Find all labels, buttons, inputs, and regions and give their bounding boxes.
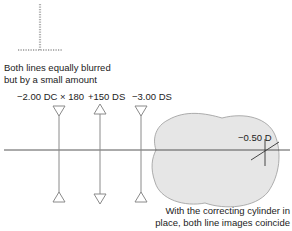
- lens-label-cylinder: −2.00 DC × 180: [17, 91, 84, 103]
- bottom-caption-line2: place, both line images coincide: [155, 217, 290, 229]
- optics-diagram: [0, 0, 292, 231]
- bottom-caption: With the correcting cylinder in place, b…: [155, 205, 290, 229]
- lens-cylinder-icon: [53, 106, 65, 202]
- lens-minus-sphere-icon: [135, 106, 147, 202]
- top-caption-line2: but by a small amount: [4, 74, 111, 86]
- lens-plus-sphere-icon: [94, 104, 106, 204]
- lens-label-plus-sphere: +150 DS: [88, 91, 125, 103]
- lens-label-minus-sphere: −3.00 DS: [132, 91, 172, 103]
- top-caption: Both lines equally blurred but by a smal…: [4, 62, 111, 86]
- eye-shape: [152, 113, 279, 206]
- top-caption-line1: Both lines equally blurred: [4, 62, 111, 74]
- eye-label: −0.50 D: [238, 132, 272, 144]
- bottom-caption-line1: With the correcting cylinder in: [155, 205, 290, 217]
- dotted-cross-icon: [18, 4, 63, 50]
